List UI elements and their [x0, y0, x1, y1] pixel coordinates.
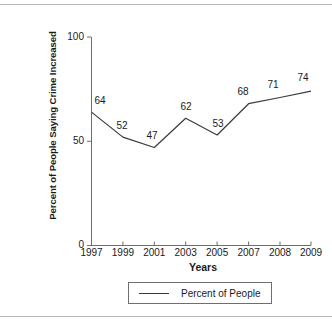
- x-tick-label-2008: 2008: [264, 247, 296, 258]
- data-label-2003: 62: [175, 102, 197, 112]
- y-tick-label-50: 50: [58, 136, 84, 146]
- chart-legend: Percent of People: [128, 282, 272, 304]
- y-tick-marks: [87, 37, 91, 246]
- y-tick-label-100: 100: [58, 32, 84, 42]
- x-tick-label-1999: 1999: [107, 247, 139, 258]
- legend-item-label: Percent of People: [181, 288, 261, 299]
- legend-line-swatch-icon: [139, 293, 169, 294]
- chart-figure: Percent of People Saying Crime Increased…: [0, 0, 332, 325]
- plot-area: [0, 0, 332, 325]
- x-tick-label-2005: 2005: [201, 247, 233, 258]
- legend-item-percent-of-people: Percent of People: [129, 283, 271, 303]
- x-tick-label-2007: 2007: [233, 247, 265, 258]
- data-label-1997: 64: [89, 96, 111, 106]
- data-label-2008: 71: [262, 80, 284, 90]
- x-tick-marks: [92, 242, 312, 246]
- x-tick-label-2001: 2001: [138, 247, 170, 258]
- x-tick-label-2003: 2003: [170, 247, 202, 258]
- x-tick-label-1997: 1997: [76, 247, 108, 258]
- data-label-2009: 74: [292, 73, 314, 83]
- x-tick-label-2009: 2009: [295, 247, 327, 258]
- data-label-2005: 53: [207, 119, 229, 129]
- data-label-2007: 68: [232, 87, 254, 97]
- data-label-2001: 47: [141, 131, 163, 141]
- x-axis-title: Years: [91, 261, 315, 273]
- data-label-1999: 52: [111, 121, 133, 131]
